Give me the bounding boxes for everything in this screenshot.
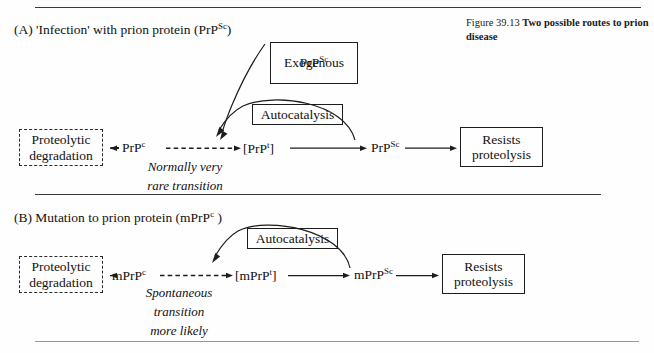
proteolytic-label-a-line2: degradation xyxy=(29,148,93,163)
panel-b-heading-tail: ) xyxy=(214,210,222,225)
divider-bottom xyxy=(35,341,639,342)
proteolytic-label-a-line1: Proteolytic xyxy=(31,132,90,147)
species-prp-t-a: [PrPt] xyxy=(243,141,274,157)
proteolytic-label-b-line2: degradation xyxy=(29,275,93,290)
proteolytic-degradation-box-b: Proteolytic degradation xyxy=(19,256,103,293)
species-prp-sc-a-base: PrP xyxy=(371,140,391,155)
species-prp-sc-a: PrPSc xyxy=(371,140,399,156)
species-mprp-sc-b: mPrPSc xyxy=(354,267,393,283)
annotation-b-line3: more likely xyxy=(104,322,254,341)
figure-caption: Figure 39.13 Two possible routes to prio… xyxy=(466,16,651,44)
panel-a-heading: (A) 'Infection' with prion protein (PrPS… xyxy=(14,22,231,38)
resists-label-b-line1: Resists xyxy=(464,259,502,274)
panel-a-heading-tail: ) xyxy=(227,22,232,37)
species-mprp-sc-b-base: mPrP xyxy=(354,267,384,282)
figure-page: Figure 39.13 Two possible routes to prio… xyxy=(0,0,654,353)
species-mprp-t-b-tail: ] xyxy=(272,268,277,283)
resists-proteolysis-box-b: Resists proteolysis xyxy=(442,254,525,294)
species-prp-t-a-tail: ] xyxy=(270,141,275,156)
autocatalysis-box-a: Autocatalysis xyxy=(252,104,343,125)
panel-b-heading-text: (B) Mutation to prion protein (mPrP xyxy=(14,210,210,225)
exogenous-prpsc-box: Exogenous PrPSc xyxy=(270,42,358,84)
autocatalysis-box-b: Autocatalysis xyxy=(247,228,338,249)
exogenous-label-line2: PrPSc xyxy=(300,55,328,70)
autocatalysis-arrowhead-a xyxy=(216,127,224,137)
species-prp-t-a-base: [PrP xyxy=(243,141,267,156)
proteolytic-degradation-box-a: Proteolytic degradation xyxy=(19,129,103,166)
panel-a-heading-text: (A) 'Infection' with prion protein (PrP xyxy=(14,22,218,37)
panel-a-heading-superscript: Sc xyxy=(218,21,227,31)
species-prp-c-a: PrPc xyxy=(122,140,145,156)
exogenous-prp-superscript: Sc xyxy=(319,54,328,64)
annotation-a: Normally very rare transition xyxy=(110,158,260,196)
proteolytic-label-b-line1: Proteolytic xyxy=(31,259,90,274)
species-mprp-c-b-base: mPrP xyxy=(112,268,142,283)
annotation-a-line1: Normally very xyxy=(110,158,260,177)
resists-label-b-line2: proteolysis xyxy=(454,274,513,289)
resists-label-a-line1: Resists xyxy=(482,132,520,147)
exogenous-prp-base: PrP xyxy=(300,55,320,70)
resists-proteolysis-box-a: Resists proteolysis xyxy=(460,127,543,167)
autocatalysis-arrowhead-b xyxy=(212,253,220,263)
species-prp-c-a-base: PrP xyxy=(122,140,142,155)
annotation-b-line1: Spontaneous xyxy=(104,284,254,303)
species-prp-sc-a-superscript: Sc xyxy=(391,139,400,149)
species-mprp-c-b: mPrPc xyxy=(112,268,146,284)
figure-caption-number: Figure 39.13 xyxy=(466,17,520,28)
exogenous-arrowhead-a xyxy=(220,131,228,140)
resists-label-a-line2: proteolysis xyxy=(472,147,531,162)
species-mprp-t-b-base: [mPrP xyxy=(235,268,270,283)
species-prp-c-a-superscript: c xyxy=(142,139,146,149)
autocatalysis-label-b: Autocatalysis xyxy=(256,231,330,246)
species-mprp-t-b: [mPrPt] xyxy=(235,268,277,284)
panel-b-heading: (B) Mutation to prion protein (mPrPc ) xyxy=(14,210,222,226)
species-mprp-c-b-superscript: c xyxy=(142,267,146,277)
annotation-b: Spontaneous transition more likely xyxy=(104,284,254,341)
annotation-a-line2: rare transition xyxy=(110,177,260,196)
autocatalysis-label-a: Autocatalysis xyxy=(261,107,335,122)
species-mprp-sc-b-superscript: Sc xyxy=(384,266,393,276)
divider-top xyxy=(35,7,641,8)
annotation-b-line2: transition xyxy=(104,303,254,322)
